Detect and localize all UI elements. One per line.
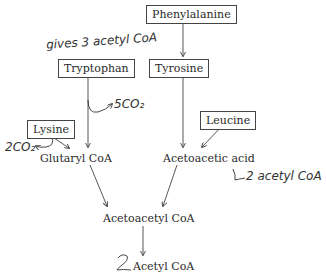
node-glutaryl-coa: Glutaryl CoA — [40, 153, 112, 164]
arrow-glutaryl-acetoacetyl — [90, 165, 107, 206]
node-acetyl-coa: Acetyl CoA — [133, 261, 194, 272]
annotation-2-acetyl-coa: 2 acetyl CoA — [246, 169, 322, 183]
node-phenylalanine: Phenylalanine — [146, 5, 237, 24]
node-tyrosine: Tyrosine — [149, 59, 209, 78]
arrow-lysine-glutaryl — [54, 138, 69, 148]
node-acetoacetic-acid: Acetoacetic acid — [163, 153, 255, 164]
node-tryptophan: Tryptophan — [58, 59, 135, 78]
annotation-5co2: 5CO₂ — [114, 97, 144, 111]
arrow-acetoacetic-acetoacetyl — [163, 165, 177, 206]
node-lysine: Lysine — [27, 120, 75, 139]
arrow-5co2 — [88, 100, 112, 112]
arrow-2-acetyl-coa — [233, 169, 245, 180]
node-acetoacetyl-coa: Acetoacetyl CoA — [103, 213, 195, 224]
annotation-2co2: 2CO₂ — [5, 140, 35, 154]
hand-two-glyph — [117, 255, 131, 270]
node-leucine: Leucine — [200, 111, 256, 130]
